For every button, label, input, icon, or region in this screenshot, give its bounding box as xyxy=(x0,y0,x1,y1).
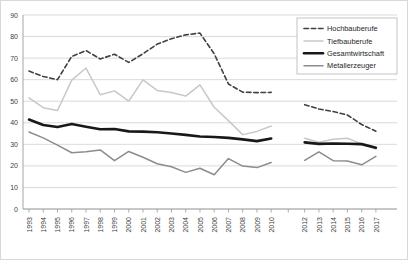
chart-canvas: 0102030405060708090199319941995199619971… xyxy=(1,1,408,260)
x-axis-tick-label: 2007 xyxy=(225,217,232,233)
x-axis-tick-label: 2001 xyxy=(140,217,147,233)
legend-label-tiefbauberufe: Tiefbauberufe xyxy=(327,37,372,46)
legend-label-gesamtwirtschaft: Gesamtwirtschaft xyxy=(327,49,384,58)
x-axis-tick-label: 2004 xyxy=(182,217,189,233)
y-axis-tick-label: 80 xyxy=(10,33,18,40)
y-axis-tick-label: 90 xyxy=(10,12,18,19)
y-axis-tick-label: 10 xyxy=(10,184,18,191)
x-axis-tick-label: 2005 xyxy=(197,217,204,233)
y-axis-tick-label: 40 xyxy=(10,119,18,126)
y-axis-tick-label: 0 xyxy=(14,206,18,213)
y-axis-tick-label: 70 xyxy=(10,55,18,62)
x-axis-tick-label: 2003 xyxy=(168,217,175,233)
x-axis-tick-label: 1998 xyxy=(97,217,104,233)
x-axis-tick-label: 2009 xyxy=(254,217,261,233)
x-axis-tick-label: 1995 xyxy=(54,217,61,233)
legend: HochbauberufeTiefbauberufeGesamtwirtscha… xyxy=(297,18,397,74)
x-axis-tick-label: 1994 xyxy=(40,217,47,233)
x-axis-tick-label: 2006 xyxy=(211,217,218,233)
x-axis-tick-label: 2017 xyxy=(373,217,380,233)
x-axis-tick-label: 2013 xyxy=(316,217,323,233)
series-line-gesamtwirtschaft xyxy=(305,142,376,147)
x-axis-tick-label: 2014 xyxy=(330,217,337,233)
x-axis-tick-label: 2002 xyxy=(154,217,161,233)
x-axis-tick-label: 1999 xyxy=(111,217,118,233)
x-axis-tick-label: 2010 xyxy=(268,217,275,233)
y-axis-tick-label: 60 xyxy=(10,76,18,83)
x-axis-tick-label: 1997 xyxy=(83,217,90,233)
x-axis-tick-label: 2016 xyxy=(358,217,365,233)
y-axis-tick-label: 50 xyxy=(10,98,18,105)
series-line-hochbauberufe xyxy=(29,33,271,92)
x-axis-ticks: 1993199419951996199719981999200020012002… xyxy=(26,209,380,233)
y-axis-tick-label: 20 xyxy=(10,162,18,169)
x-axis-tick-label: 1996 xyxy=(68,217,75,233)
x-axis-tick-label: 2000 xyxy=(125,217,132,233)
series-line-hochbauberufe xyxy=(305,105,376,132)
legend-label-metallerzeuger: Metallerzeuger xyxy=(327,61,376,70)
line-chart: 0102030405060708090199319941995199619971… xyxy=(0,0,408,260)
x-axis-tick-label: 2015 xyxy=(344,217,351,233)
x-axis-tick-label: 2008 xyxy=(239,217,246,233)
y-axis-tick-label: 30 xyxy=(10,141,18,148)
x-axis-tick-label: 2012 xyxy=(301,217,308,233)
series-line-metallerzeuger xyxy=(305,152,376,165)
x-axis-tick-label: 1993 xyxy=(26,217,33,233)
legend-label-hochbauberufe: Hochbauberufe xyxy=(327,24,378,33)
